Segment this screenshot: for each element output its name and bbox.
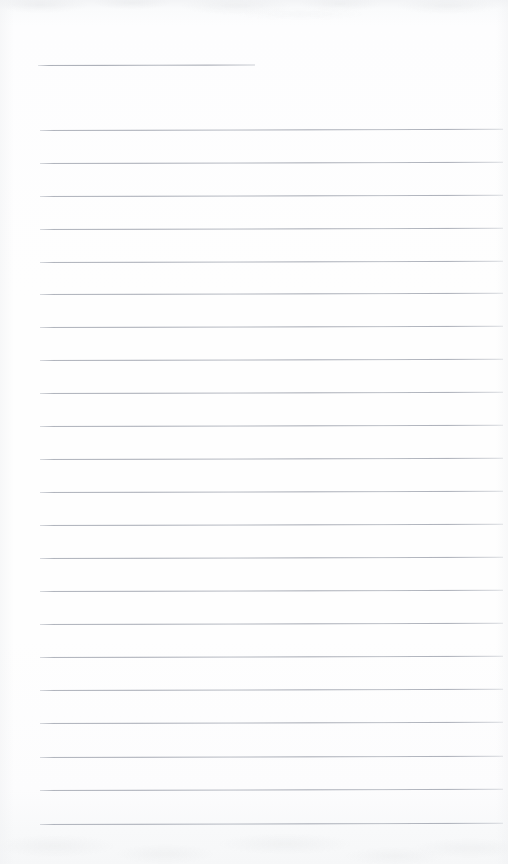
rule-10 [40, 425, 503, 427]
rule-11 [40, 458, 503, 460]
ruled-lines-layer [0, 0, 508, 864]
rule-7 [40, 326, 503, 328]
rule-1 [40, 129, 503, 131]
rule-9 [40, 392, 503, 394]
rule-2 [40, 162, 503, 164]
rule-20 [40, 756, 503, 758]
rule-16 [40, 623, 503, 625]
notepad-page [0, 0, 508, 864]
rule-8 [40, 359, 503, 361]
rule-14 [40, 557, 503, 559]
rule-4 [40, 228, 503, 230]
rule-17 [40, 656, 503, 658]
rule-18 [40, 689, 503, 691]
rule-12 [40, 491, 503, 493]
rule-3 [40, 195, 503, 197]
rule-13 [40, 524, 503, 526]
rule-6 [40, 293, 503, 295]
rule-5 [40, 261, 503, 263]
rule-15 [40, 590, 503, 592]
header-rule [38, 64, 255, 66]
rule-19 [40, 722, 503, 724]
rule-21 [40, 789, 503, 791]
rule-22 [40, 823, 503, 825]
